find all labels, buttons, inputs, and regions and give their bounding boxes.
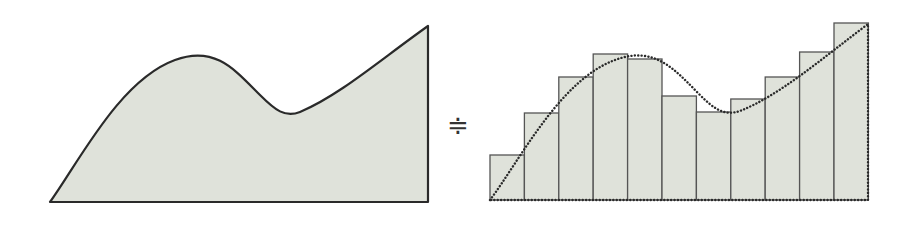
approximation-bar [662, 96, 696, 200]
continuous-area-shape [50, 26, 428, 202]
approximation-bar [628, 59, 662, 200]
approximation-bar [731, 99, 765, 200]
approximation-bars [490, 23, 868, 200]
approximation-bar [593, 54, 627, 200]
approximation-bar [834, 23, 868, 200]
approximately-equal-symbol: ≑ [447, 112, 469, 138]
approximation-bar [800, 52, 834, 200]
approximation-bar [559, 77, 593, 200]
approximation-bar [524, 113, 558, 200]
approximation-bar [490, 155, 524, 200]
approximation-bar [696, 112, 730, 200]
